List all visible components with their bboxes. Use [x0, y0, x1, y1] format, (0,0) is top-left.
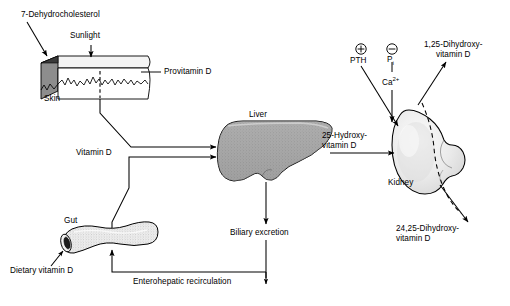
skin-block-graphic — [41, 56, 150, 99]
label-pi: Pi — [387, 55, 394, 66]
arrow-kidney-to-2425-dihydroxy — [440, 185, 468, 222]
label-liver: Liver — [249, 110, 267, 120]
label-125-dihydroxyvitamin-d-line1: 1,25-Dihydroxy- — [424, 40, 483, 50]
calcium-text: Ca — [382, 78, 392, 87]
regulation-symbols — [356, 44, 397, 54]
label-skin: Skin — [44, 94, 60, 104]
label-25-hydroxyvitamin-d-line2: vitamin D — [322, 141, 357, 151]
label-calcium: Ca2+ — [382, 76, 399, 87]
label-enterohepatic-recirculation: Enterohepatic recirculation — [133, 277, 231, 287]
label-provitamin-d: Provitamin D — [164, 67, 211, 77]
label-125-dihydroxyvitamin-d-line2: vitamin D — [436, 50, 471, 60]
pi-subscript: i — [392, 60, 393, 66]
label-25-hydroxyvitamin-d-line1: 25-Hydroxy- — [322, 131, 367, 141]
vitamin-d-metabolism-diagram: 7-Dehydrocholesterol Sunlight Provitamin… — [0, 0, 510, 306]
arrow-dehydrocholesterol-to-skin — [27, 22, 47, 56]
label-kidney: Kidney — [388, 178, 413, 188]
label-pth: PTH — [350, 56, 367, 66]
label-sunlight: Sunlight — [70, 31, 100, 41]
label-2425-dihydroxyvitamin-d-line2: vitamin D — [396, 234, 431, 244]
liver-graphic — [217, 121, 332, 181]
kidney-graphic — [392, 103, 465, 213]
calcium-superscript: 2+ — [392, 76, 399, 82]
arrow-enterohepatic-recirculation — [112, 250, 266, 272]
arrow-kidney-to-125-dihydroxy — [418, 62, 446, 105]
gut-graphic — [59, 222, 158, 253]
arrow-gut-to-liver — [112, 157, 216, 228]
label-biliary-excretion: Biliary excretion — [230, 228, 289, 238]
label-vitamin-d: Vitamin D — [76, 148, 112, 158]
arrow-dietary-to-gut — [51, 251, 63, 266]
arrow-skin-to-liver — [100, 99, 216, 147]
label-7-dehydrocholesterol: 7-Dehydrocholesterol — [21, 10, 100, 20]
label-gut: Gut — [64, 216, 77, 226]
label-dietary-vitamin-d: Dietary vitamin D — [10, 266, 73, 276]
label-2425-dihydroxyvitamin-d-line1: 24,25-Dihydroxy- — [396, 224, 459, 234]
